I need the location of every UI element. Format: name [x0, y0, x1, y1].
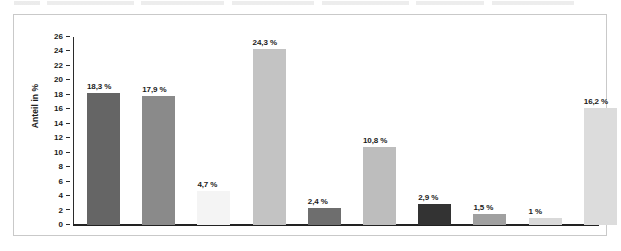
bar-data-label: 10,8 % — [363, 136, 387, 145]
bar-slot[interactable]: 18,3 % — [87, 93, 120, 225]
bar-data-label: 18,3 % — [87, 82, 111, 91]
y-axis-tick-label: 6 — [59, 177, 63, 187]
y-axis-tick-mark — [66, 36, 70, 37]
y-axis-tick-label: 8 — [59, 162, 63, 172]
y-axis-tick-label: 4 — [59, 191, 63, 201]
y-axis-tick-mark — [66, 123, 70, 124]
bar-slot[interactable]: 17,9 % — [142, 96, 175, 225]
y-axis-tick-label: 26 — [54, 32, 63, 42]
bar-slot[interactable]: 1 % — [529, 218, 562, 225]
bar-slot[interactable]: 1,5 % — [473, 214, 506, 225]
y-axis-tick: 20 — [54, 75, 70, 85]
y-axis-tick: 6 — [59, 177, 70, 187]
bar-slot[interactable]: 24,3 % — [253, 49, 286, 225]
y-axis-tick: 12 — [54, 133, 70, 143]
plot-area: Anteil in % 02468101214161820222426 18,3… — [14, 15, 606, 235]
bar-data-label: 1,5 % — [473, 203, 493, 212]
y-axis-tick-label: 20 — [54, 75, 63, 85]
bar[interactable]: 18,3 % — [87, 93, 120, 225]
y-axis-tick: 8 — [59, 162, 70, 172]
y-axis-tick-label: 16 — [54, 104, 63, 114]
y-axis-tick: 18 — [54, 90, 70, 100]
y-axis-tick-label: 0 — [59, 220, 63, 230]
y-axis-tick: 24 — [54, 46, 70, 56]
bar-slot[interactable]: 16,2 % — [584, 108, 617, 225]
y-axis-tick: 14 — [54, 119, 70, 129]
y-axis-tick-label: 22 — [54, 61, 63, 71]
bar-data-label: 2,9 % — [418, 193, 438, 202]
bar-data-label: 17,9 % — [142, 85, 166, 94]
y-axis-tick-mark — [66, 209, 70, 210]
bar[interactable]: 1,5 % — [473, 214, 506, 225]
bar[interactable]: 4,7 % — [197, 191, 230, 225]
y-axis-label: Anteil in % — [30, 61, 40, 151]
bar-data-label: 2,4 % — [308, 197, 328, 206]
y-axis-tick-mark — [66, 166, 70, 167]
y-axis-tick: 26 — [54, 32, 70, 42]
y-axis-tick-mark — [66, 50, 70, 51]
y-axis-tick-label: 12 — [54, 133, 63, 143]
bar[interactable]: 2,9 % — [418, 204, 451, 225]
bar-slot[interactable]: 10,8 % — [363, 147, 396, 225]
y-axis-tick: 2 — [59, 206, 70, 216]
y-axis-tick-mark — [66, 152, 70, 153]
bar[interactable]: 16,2 % — [584, 108, 617, 225]
y-axis-tick-mark — [66, 94, 70, 95]
y-axis-tick-mark — [66, 224, 70, 225]
y-axis-tick-mark — [66, 65, 70, 66]
bar-data-label: 4,7 % — [197, 180, 217, 189]
chart-frame: Anteil in % 02468101214161820222426 18,3… — [13, 14, 607, 236]
bar[interactable]: 2,4 % — [308, 208, 341, 225]
bar[interactable]: 10,8 % — [363, 147, 396, 225]
bar-slot[interactable]: 4,7 % — [197, 191, 230, 225]
y-axis-tick: 22 — [54, 61, 70, 71]
y-axis-tick-label: 18 — [54, 90, 63, 100]
bar[interactable]: 17,9 % — [142, 96, 175, 225]
y-axis-tick-mark — [66, 195, 70, 196]
chart-page: Anteil in % 02468101214161820222426 18,3… — [0, 0, 621, 251]
y-axis-tick-mark — [66, 181, 70, 182]
y-axis-tick: 4 — [59, 191, 70, 201]
y-axis-tick-label: 10 — [54, 148, 63, 158]
y-axis-ticks: 02468101214161820222426 — [44, 35, 70, 225]
y-axis-tick-label: 14 — [54, 119, 63, 129]
bar-slot[interactable]: 2,9 % — [418, 204, 451, 225]
page-top-text-artifact — [14, 1, 594, 5]
y-axis-tick-mark — [66, 108, 70, 109]
bar-data-label: 24,3 % — [253, 38, 277, 47]
bar-slot[interactable]: 2,4 % — [308, 208, 341, 225]
y-axis-tick-label: 24 — [54, 46, 63, 56]
bar-series: 18,3 %17,9 %4,7 %24,3 %2,4 %10,8 %2,9 %1… — [74, 37, 599, 225]
bar[interactable]: 24,3 % — [253, 49, 286, 225]
y-axis-tick: 16 — [54, 104, 70, 114]
y-axis-tick-mark — [66, 79, 70, 80]
bar-data-label: 1 % — [529, 207, 543, 216]
bar[interactable]: 1 % — [529, 218, 562, 225]
y-axis-tick: 0 — [59, 220, 70, 230]
y-axis-tick-label: 2 — [59, 206, 63, 216]
bar-data-label: 16,2 % — [584, 97, 608, 106]
y-axis-tick-mark — [66, 137, 70, 138]
y-axis-tick: 10 — [54, 148, 70, 158]
